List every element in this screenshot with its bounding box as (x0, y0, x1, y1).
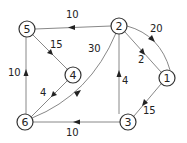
node-1: 1 (159, 70, 175, 86)
svg-text:1: 1 (164, 72, 171, 85)
arrow-2-1-curved-icon (148, 35, 155, 42)
weight-3-2: 4 (122, 75, 128, 86)
weight-3-6: 10 (66, 127, 79, 138)
weight-6-2: 30 (88, 43, 101, 54)
edge-4-6 (31, 81, 67, 117)
svg-text:4: 4 (70, 69, 77, 82)
weight-5-4: 15 (50, 39, 63, 50)
graph-diagram: 10 15 10 20 2 4 15 10 4 30 1 2 3 4 5 6 (0, 0, 187, 143)
arrow-6-5-icon (24, 69, 29, 76)
node-6: 6 (17, 114, 33, 130)
edge-2-1-curved (127, 26, 170, 70)
arrow-6-2-icon (74, 90, 81, 97)
weight-2-1: 2 (138, 54, 144, 65)
weight-2-5: 10 (66, 9, 79, 20)
arrow-2-5-icon (68, 25, 75, 30)
node-4: 4 (65, 67, 81, 83)
weight-2-1-curved: 20 (150, 23, 163, 34)
svg-text:3: 3 (125, 116, 132, 129)
node-5: 5 (19, 21, 35, 37)
node-2: 2 (111, 18, 127, 34)
node-3: 3 (120, 114, 136, 130)
weight-4-6: 4 (40, 87, 46, 98)
arrow-3-2-icon (117, 70, 122, 77)
arrow-3-6-icon (73, 120, 80, 125)
svg-text:6: 6 (22, 116, 29, 129)
svg-text:5: 5 (24, 23, 31, 36)
weight-1-3: 15 (143, 105, 156, 116)
svg-text:2: 2 (116, 20, 123, 33)
weight-6-5: 10 (8, 67, 21, 78)
